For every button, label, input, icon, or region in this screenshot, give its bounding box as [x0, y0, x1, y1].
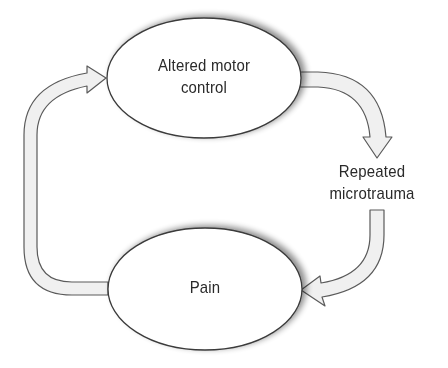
arrow-pain-to-motor-control [24, 66, 108, 295]
label-line-2: control [134, 77, 275, 99]
arrow-microtrauma-to-pain [301, 210, 384, 306]
label-line-1: Pain [161, 277, 249, 299]
arrow-motor-control-to-microtrauma [300, 72, 392, 158]
node-label-repeated-microtrauma: Repeated microtrauma [315, 161, 429, 205]
cycle-diagram: Altered motor control Repeated microtrau… [0, 0, 448, 368]
label-line-2: microtrauma [315, 183, 429, 205]
node-label-altered-motor-control: Altered motor control [134, 55, 275, 99]
label-line-1: Repeated [315, 161, 429, 183]
node-label-pain: Pain [161, 277, 249, 299]
label-line-1: Altered motor [134, 55, 275, 77]
